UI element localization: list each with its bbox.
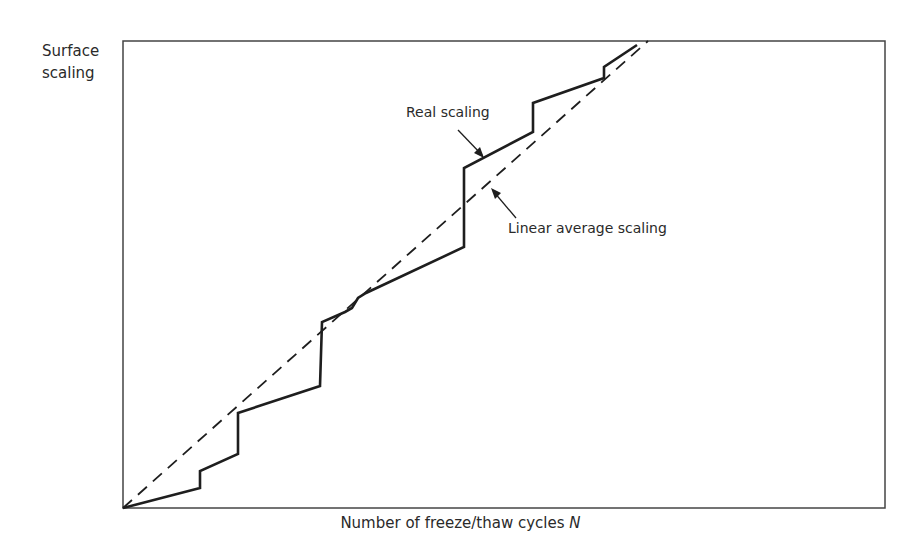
x-axis-label-variable: N xyxy=(569,514,580,532)
real-scaling-arrow xyxy=(458,130,484,158)
x-axis-label-text: Number of freeze/thaw cycles xyxy=(340,514,564,532)
linear-average-line xyxy=(123,41,648,508)
linear-average-label: Linear average scaling xyxy=(508,220,667,236)
linear-average-arrow xyxy=(491,188,516,218)
real-scaling-label: Real scaling xyxy=(406,104,490,120)
x-axis-label: Number of freeze/thaw cycles N xyxy=(0,514,921,532)
chart-canvas xyxy=(0,0,921,544)
